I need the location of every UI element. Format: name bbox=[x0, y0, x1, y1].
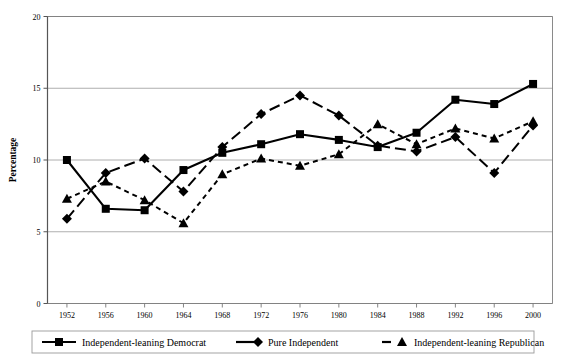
data-point-square bbox=[55, 338, 63, 346]
x-tick-label: 2000 bbox=[525, 311, 541, 320]
y-axis-title-text: Percentage bbox=[8, 138, 18, 183]
x-tick-label: 1972 bbox=[253, 311, 269, 320]
x-tick-label: 1956 bbox=[98, 311, 114, 320]
x-tick-label: 1952 bbox=[59, 311, 75, 320]
chart-legend: Independent-leaning DemocratPure Indepen… bbox=[32, 331, 544, 353]
x-tick-label: 1996 bbox=[486, 311, 502, 320]
x-tick-label: 1980 bbox=[331, 311, 347, 320]
y-axis-title: Percentage bbox=[8, 138, 18, 183]
data-point-square bbox=[141, 206, 149, 214]
data-point-square bbox=[63, 156, 71, 164]
data-point-square bbox=[529, 80, 537, 88]
y-tick-label: 0 bbox=[37, 300, 41, 309]
legend-label: Independent-leaning Republican bbox=[414, 337, 544, 348]
y-tick-label: 20 bbox=[33, 13, 41, 22]
legend-label: Pure Independent bbox=[268, 337, 338, 348]
data-point-square bbox=[102, 205, 110, 213]
x-tick-label: 1960 bbox=[137, 311, 153, 320]
data-point-square bbox=[413, 129, 421, 137]
data-point-square bbox=[451, 96, 459, 104]
y-tick-label: 5 bbox=[37, 228, 41, 237]
data-point-square bbox=[490, 100, 498, 108]
y-tick-label: 10 bbox=[33, 156, 41, 165]
x-tick-label: 1988 bbox=[409, 311, 425, 320]
x-tick-label: 1964 bbox=[175, 311, 191, 320]
y-tick-label: 15 bbox=[33, 84, 41, 93]
chart-figure: 05101520 1952195619601964196819721976198… bbox=[0, 0, 566, 363]
data-point-square bbox=[335, 136, 343, 144]
data-point-square bbox=[179, 166, 187, 174]
legend-label: Independent-leaning Democrat bbox=[82, 337, 206, 348]
x-tick-label: 1968 bbox=[214, 311, 230, 320]
x-tick-label: 1976 bbox=[292, 311, 308, 320]
x-tick-label: 1992 bbox=[447, 311, 463, 320]
x-tick-label: 1984 bbox=[370, 311, 386, 320]
line-chart: 05101520 1952195619601964196819721976198… bbox=[0, 0, 566, 363]
data-point-square bbox=[257, 140, 265, 148]
data-point-square bbox=[296, 130, 304, 138]
